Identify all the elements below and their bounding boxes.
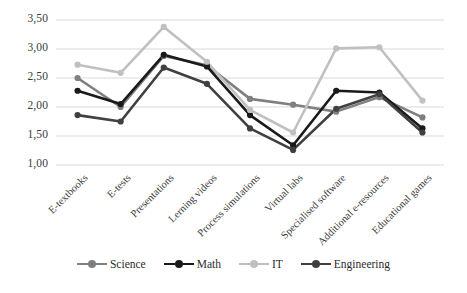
data-point-marker (333, 45, 339, 51)
legend-label: Math (197, 258, 221, 270)
y-axis-tick-label: 2,00 (14, 99, 48, 111)
y-axis-tick-label: 1,00 (14, 157, 48, 169)
legend-item-math[interactable]: Math (164, 258, 221, 270)
data-point-marker (247, 125, 253, 131)
data-point-marker (290, 129, 296, 135)
data-point-marker (419, 98, 425, 104)
data-point-marker (118, 118, 124, 124)
legend-marker-icon (239, 258, 269, 270)
data-point-marker (204, 81, 210, 87)
legend-label: IT (272, 258, 283, 270)
data-point-marker (161, 64, 167, 70)
data-point-marker (290, 147, 296, 153)
line-chart: 1,001,502,002,503,003,50 E-textbooksE-te… (0, 0, 467, 293)
data-point-marker (74, 112, 80, 118)
legend-marker-icon (77, 258, 107, 270)
legend-item-science[interactable]: Science (77, 258, 146, 270)
data-point-marker (74, 62, 80, 68)
y-axis-tick-label: 3,50 (14, 12, 48, 24)
data-point-marker (290, 102, 296, 108)
data-point-marker (247, 96, 253, 102)
data-point-marker (161, 24, 167, 30)
data-point-marker (74, 88, 80, 94)
legend-label: Science (110, 258, 146, 270)
data-point-marker (333, 106, 339, 112)
y-axis-tick-label: 2,50 (14, 70, 48, 82)
data-point-marker (118, 70, 124, 76)
data-point-marker (419, 129, 425, 135)
data-point-marker (118, 101, 124, 107)
data-point-marker (161, 52, 167, 58)
chart-legend: ScienceMathITEngineering (0, 258, 467, 270)
y-axis-tick-label: 3,00 (14, 41, 48, 53)
data-point-marker (247, 107, 253, 113)
data-point-marker (376, 44, 382, 50)
legend-marker-icon (164, 258, 194, 270)
data-point-marker (74, 75, 80, 81)
legend-item-it[interactable]: IT (239, 258, 283, 270)
y-axis-tick-label: 1,50 (14, 128, 48, 140)
data-point-marker (419, 114, 425, 120)
data-point-marker (376, 91, 382, 97)
legend-item-engineering[interactable]: Engineering (301, 258, 390, 270)
data-point-marker (204, 59, 210, 65)
legend-marker-icon (301, 258, 331, 270)
data-point-marker (333, 88, 339, 94)
legend-label: Engineering (334, 258, 390, 270)
